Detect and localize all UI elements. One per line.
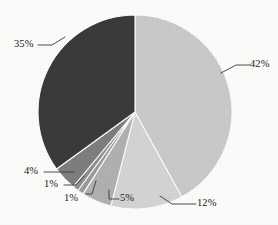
slice-label-1-second: 1% [64, 192, 78, 203]
pie-slices-group [38, 15, 232, 209]
slice-label-5: 5% [120, 192, 134, 203]
slice-label-4: 4% [24, 165, 38, 176]
pie-chart-figure: 42% 12% 5% 1% 1% 4% 35% [0, 0, 278, 225]
leader-line-42 [221, 65, 250, 73]
slice-label-35: 35% [14, 38, 34, 49]
pie-chart-canvas [0, 0, 278, 225]
slice-label-1-first: 1% [44, 178, 58, 189]
slice-label-42: 42% [250, 58, 270, 69]
leader-line-35 [38, 37, 65, 45]
slice-label-12: 12% [197, 197, 217, 208]
